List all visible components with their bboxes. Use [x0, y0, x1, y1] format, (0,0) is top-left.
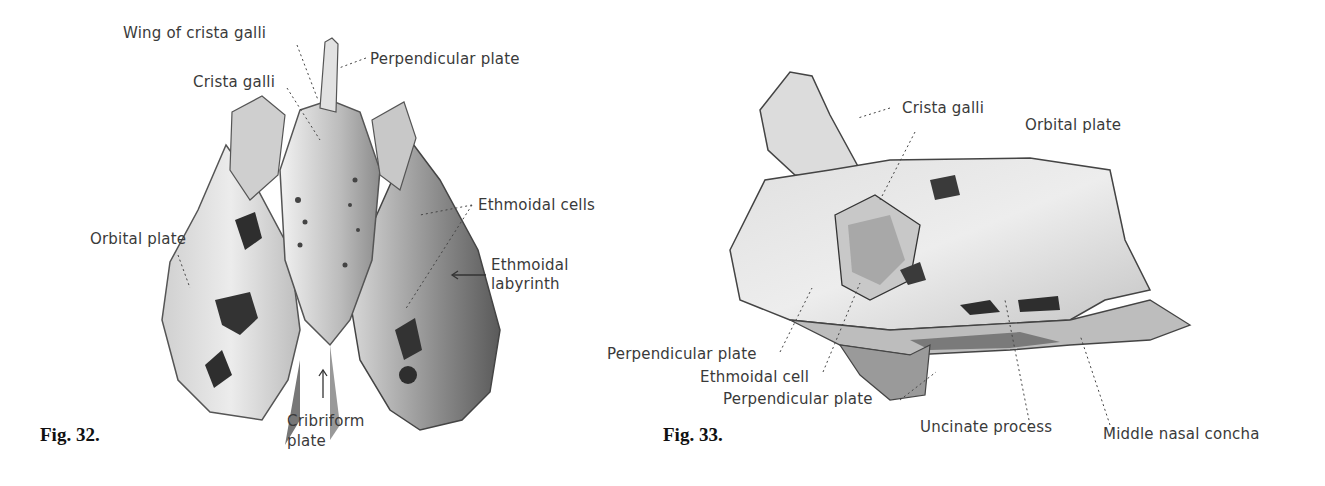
figure-32: Wing of crista galli Perpendicular plate… [0, 0, 620, 486]
label-uncinate-process: Uncinate process [920, 418, 1052, 436]
figure-32-caption: Fig. 32. [40, 424, 100, 446]
label-ethmoidal-labyrinth-line1: Ethmoidal [491, 256, 569, 274]
ethmoid-bone-lateral-view-illustration [590, 0, 1325, 486]
label-perpendicular-plate-upper: Perpendicular plate [607, 345, 757, 363]
label-crista-galli: Crista galli [902, 99, 984, 117]
label-perpendicular-plate-lower: Perpendicular plate [723, 390, 873, 408]
label-ethmoidal-cell: Ethmoidal cell [700, 368, 809, 386]
label-perpendicular-plate: Perpendicular plate [370, 50, 520, 68]
label-orbital-plate: Orbital plate [90, 230, 186, 248]
label-orbital-plate: Orbital plate [1025, 116, 1121, 134]
figure-33: Crista galli Orbital plate Perpendicular… [590, 0, 1325, 486]
label-wing-of-crista-galli: Wing of crista galli [123, 24, 266, 42]
label-ethmoidal-cells: Ethmoidal cells [478, 196, 595, 214]
label-middle-nasal-concha: Middle nasal concha [1103, 425, 1260, 443]
label-ethmoidal-labyrinth-line2: labyrinth [491, 275, 560, 293]
label-cribriform-plate-line1: Cribriform [287, 412, 365, 430]
figure-33-caption: Fig. 33. [663, 424, 723, 446]
label-cribriform-plate-line2: plate [287, 432, 326, 450]
label-crista-galli: Crista galli [193, 73, 275, 91]
